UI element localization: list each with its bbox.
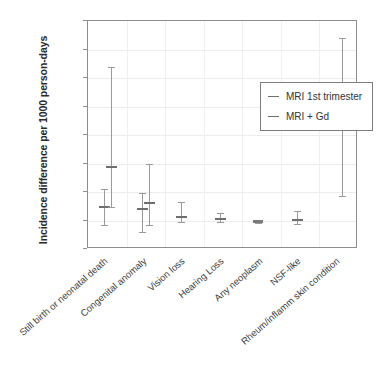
legend-item: MRI + Gd [268,109,362,124]
error-bar-cap [178,222,185,223]
data-point-marker [137,208,148,210]
error-bar-cap [294,211,301,212]
legend-dash-icon [268,96,279,98]
gridline [88,221,356,222]
data-point-marker [144,202,155,204]
y-axis-title: Incidence difference per 1000 person-day… [35,20,51,260]
error-bar-cap [101,225,108,226]
error-bar-line [149,164,150,225]
error-bar-cap [146,225,153,226]
vertical-gridline [281,21,282,247]
error-bar-line [181,202,182,222]
error-bar-cap [339,38,346,39]
error-bar-cap [139,232,146,233]
vertical-gridline [242,21,243,247]
error-bar-cap [178,202,185,203]
gridline [88,135,356,136]
vertical-gridline [165,21,166,247]
y-axis-tick-mark [83,248,87,249]
legend-item-label: MRI + Gd [286,111,329,122]
error-bar-cap [294,224,301,225]
chart-legend: MRI 1st trimester MRI + Gd [260,82,373,131]
chart-figure: Incidence difference per 1000 person-day… [0,0,376,379]
error-bar-line [111,67,112,208]
legend-item: MRI 1st trimester [268,89,362,104]
y-axis-title-text: Incidence difference per 1000 person-day… [37,36,49,244]
vertical-gridline [319,21,320,247]
error-bar-cap [101,189,108,190]
legend-item-label: MRI 1st trimester [286,91,362,102]
error-bar-cap [108,207,115,208]
error-bar-cap [217,222,224,223]
error-bar-cap [339,196,346,197]
data-point-marker [253,220,263,223]
gridline [88,164,356,165]
error-bar-cap [146,164,153,165]
error-bar-line [297,211,298,225]
data-point-marker [176,216,187,218]
data-point-marker [106,166,117,168]
gridline [88,192,356,193]
legend-dash-icon [268,116,279,118]
gridline [88,50,356,51]
error-bar-cap [139,193,146,194]
data-point-marker [215,218,226,220]
vertical-gridline [204,21,205,247]
gridline [88,78,356,79]
error-bar-cap [217,213,224,214]
error-bar-line [142,193,143,231]
error-bar-cap [108,67,115,68]
plot-area: MRI 1st trimester MRI + Gd [87,20,357,248]
vertical-gridline [127,21,128,247]
data-point-marker [292,219,303,221]
